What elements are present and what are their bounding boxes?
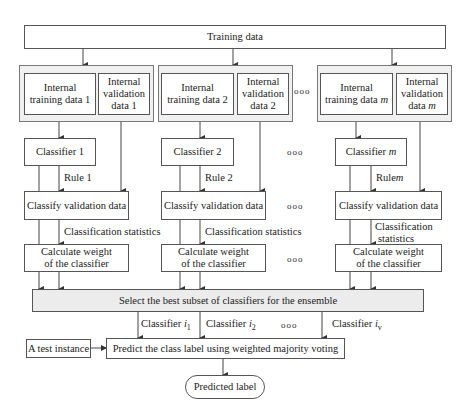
classifier-m-label: Classifier m [346, 146, 396, 158]
internal-training-label: Internal [44, 82, 77, 94]
internal-training-data-2-text: training data 2 [167, 94, 228, 106]
classification-statistics-label-m-a: Classification [375, 221, 433, 232]
selected-classifier-i2-label: Classifier i2 [206, 318, 256, 333]
internal-validation-label: Internal [406, 76, 439, 88]
classification-statistics-label-2: Classification statistics [205, 226, 302, 237]
internal-validation-label: Internal [247, 76, 280, 88]
classifier-word: Classifier [332, 318, 375, 329]
select-subset-label: Select the best subset of classifiers fo… [119, 295, 337, 307]
of-the-classifier-text: of the classifier [356, 258, 421, 270]
validation-word: validation [103, 88, 145, 100]
classifier-m-box: Classifier m [335, 138, 407, 166]
classify-validation-box-m: Classify validation data [335, 191, 442, 220]
ellipsis-weight: ooo [287, 254, 304, 264]
subscript-1: 1 [187, 323, 191, 332]
training-data-label: Training data [207, 31, 263, 43]
internal-training-data-1-box: Internal training data 1 [24, 73, 96, 115]
data-prefix: data [408, 100, 428, 111]
classifier-word: Classifier [206, 318, 249, 329]
internal-validation-data-m-box: Internal validation data m [396, 73, 448, 115]
internal-training-label: Internal [181, 82, 214, 94]
ellipsis-groups: ooo [294, 86, 311, 96]
validation-word: validation [242, 88, 284, 100]
selected-classifier-i1-label: Classifier i1 [141, 318, 191, 333]
subscript-v: v [378, 323, 382, 332]
internal-training-data-m-box: Internal training data m [320, 73, 393, 115]
internal-validation-label: Internal [108, 76, 141, 88]
classifier-1-label: Classifier 1 [36, 146, 84, 158]
ellipsis-classify: ooo [287, 201, 304, 211]
of-the-classifier-text: of the classifier [181, 258, 246, 270]
calculate-weight-text: Calculate weight [353, 246, 424, 258]
classifier-prefix: Classifier [346, 146, 389, 157]
internal-training-data-2-box: Internal training data 2 [161, 73, 234, 115]
ellipsis-selected: ooo [281, 320, 298, 330]
m-symbol: m [389, 146, 397, 157]
internal-training-data-m-text: training data m [325, 94, 388, 106]
classify-validation-box-2: Classify validation data [161, 191, 266, 220]
subscript-2: 2 [252, 323, 256, 332]
classify-validation-label: Classify validation data [164, 200, 263, 212]
predict-box: Predict the class label using weighted m… [106, 338, 345, 359]
calculate-weight-text: Calculate weight [178, 246, 249, 258]
m-symbol: m [396, 172, 404, 183]
m-symbol: m [380, 94, 388, 105]
calculate-weight-box-2: Calculate weight of the classifier [161, 244, 266, 272]
classifier-2-label: Classifier 2 [173, 146, 221, 158]
predicted-label-text: Predicted label [194, 381, 257, 393]
of-the-classifier-text: of the classifier [44, 258, 109, 270]
selected-classifier-iv-label: Classifier iv [332, 318, 382, 333]
classify-validation-box-1: Classify validation data [24, 191, 129, 220]
training-data-prefix: training data [325, 94, 380, 105]
classification-statistics-label-m-b: statistics [378, 233, 414, 244]
predicted-label-terminal: Predicted label [185, 375, 265, 399]
internal-validation-data-m-text: data m [408, 100, 436, 112]
m-symbol: m [428, 100, 436, 111]
internal-validation-data-1-box: Internal validation data 1 [98, 73, 150, 115]
test-instance-box: A test instance [26, 339, 91, 358]
rule-prefix: Rule [376, 172, 396, 183]
internal-validation-data-1-text: data 1 [111, 100, 136, 112]
classify-validation-label: Classify validation data [27, 200, 126, 212]
validation-word: validation [401, 88, 443, 100]
select-subset-box: Select the best subset of classifiers fo… [32, 289, 424, 312]
internal-training-data-1-text: training data 1 [30, 94, 91, 106]
classification-statistics-label-1: Classification statistics [64, 226, 161, 237]
rule-m-label: Rulem [376, 172, 403, 183]
classifier-2-box: Classifier 2 [161, 138, 234, 166]
calculate-weight-text: Calculate weight [41, 246, 112, 258]
internal-validation-data-2-box: Internal validation data 2 [237, 73, 289, 115]
classify-validation-label: Classify validation data [339, 200, 438, 212]
classifier-word: Classifier [141, 318, 184, 329]
internal-training-label: Internal [340, 82, 373, 94]
internal-validation-data-2-text: data 2 [250, 100, 275, 112]
calculate-weight-box-1: Calculate weight of the classifier [24, 244, 129, 272]
predict-label: Predict the class label using weighted m… [113, 343, 338, 355]
test-instance-label: A test instance [28, 343, 89, 355]
rule-1-label: Rule 1 [64, 172, 92, 183]
calculate-weight-box-m: Calculate weight of the classifier [335, 244, 442, 272]
training-data-box: Training data [24, 25, 446, 49]
classifier-1-box: Classifier 1 [24, 138, 96, 166]
ellipsis-classifiers: ooo [287, 147, 304, 157]
rule-2-label: Rule 2 [205, 172, 233, 183]
